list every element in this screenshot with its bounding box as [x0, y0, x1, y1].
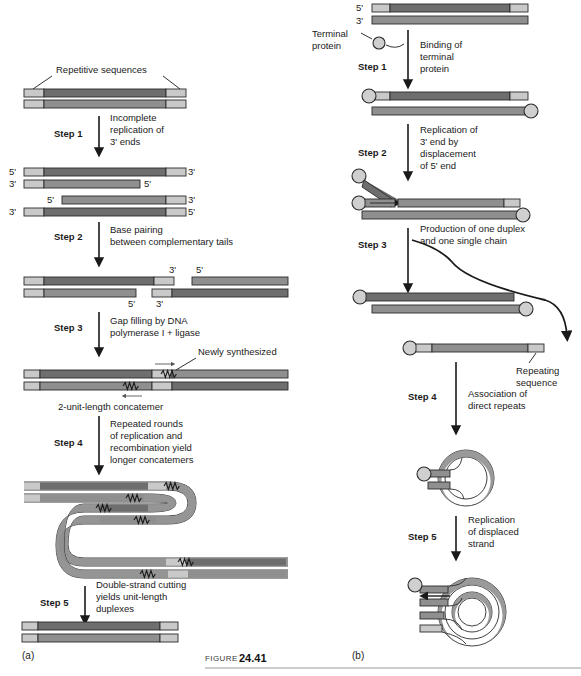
figure-container: Repetitive sequences Step 1 Incomplete r… [0, 0, 581, 676]
terminal-protein-icon [352, 196, 366, 210]
concatemer-label: 2-unit-length concatemer [58, 401, 163, 412]
step-5-desc-line-1: Double-strand cutting [96, 579, 186, 590]
terminal-protein-icon [408, 578, 422, 592]
step-2-desc-line-1: Base pairing [110, 224, 163, 235]
terminal-protein-icon [403, 341, 417, 355]
step-2b-desc-line-1: Replication of [420, 124, 478, 135]
step-3-label-a: Step 3 [54, 322, 83, 333]
five-prime-label: 5' [47, 194, 54, 205]
repetitive-sequences-label: Repetitive sequences [56, 64, 147, 75]
terminal-protein-label-line-1: Terminal [312, 28, 348, 39]
step-5b-desc-line-2: of displaced [468, 526, 519, 537]
step-4-desc-line-3: recombination yield [110, 442, 192, 453]
three-prime-label: 3' [188, 194, 195, 205]
step-1-desc-line-1: Incomplete [110, 112, 156, 123]
step-2-desc-line-2: between complementary tails [110, 236, 233, 247]
panel-b-label: (b) [352, 650, 364, 661]
step-5-desc-line-2: yields unit-length [96, 591, 167, 602]
repeating-sequence-label-line-2: sequence [516, 377, 557, 388]
terminal-protein-icon [417, 467, 431, 481]
step-3b-desc-line-2: and one single chain [420, 235, 507, 246]
step-1b-desc-line-2: terminal [420, 51, 454, 62]
step-1-desc-line-3: 3' ends [110, 136, 141, 147]
five-prime-label: 5' [188, 206, 195, 217]
step-2-label-b: Step 2 [358, 147, 387, 158]
step-5-label-a: Step 5 [40, 597, 69, 608]
three-prime-label: 3' [9, 178, 16, 189]
step-3b-desc-line-1: Production of one duplex [420, 223, 525, 234]
step-5b-desc-line-3: strand [468, 538, 494, 549]
figure-caption-number: 24.41 [239, 652, 267, 664]
terminal-protein-icon [524, 104, 538, 118]
step-2b-desc-line-3: displacement [420, 148, 476, 159]
step-2b-desc-line-4: of 5' end [420, 160, 456, 171]
five-prime-label: 5' [9, 166, 16, 177]
three-prime-label: 3' [169, 264, 176, 275]
three-prime-label: 3' [356, 15, 363, 26]
three-prime-label: 3' [188, 166, 195, 177]
five-prime-label: 5' [144, 178, 151, 189]
figure-caption-word: FIGURE [205, 654, 238, 663]
step-3-desc-line-2: polymerase I + ligase [110, 327, 200, 338]
newly-synthesized-label: Newly synthesized [198, 346, 277, 357]
step-1b-desc-line-1: Binding of [420, 39, 463, 50]
three-prime-label: 3' [156, 298, 163, 309]
step-1-desc-line-2: replication of [110, 124, 164, 135]
three-prime-label: 3' [9, 206, 16, 217]
step-4-desc-line-2: of replication and [110, 430, 182, 441]
step-3-desc-line-1: Gap filling by DNA [110, 315, 188, 326]
step-2b-desc-line-2: 3' end by [420, 136, 459, 147]
step-4-desc-line-4: longer concatemers [110, 454, 194, 465]
step-4-label-a: Step 4 [54, 437, 83, 448]
step-2-label-a: Step 2 [54, 231, 83, 242]
panel-a-label: (a) [22, 650, 34, 661]
step-4b-desc-line-1: Association of [468, 388, 528, 399]
step-1-label-b: Step 1 [358, 61, 387, 72]
terminal-protein-label-line-2: protein [312, 40, 341, 51]
terminal-protein-icon [353, 290, 367, 304]
step-1b-desc-line-3: protein [420, 63, 449, 74]
step-5-label-b: Step 5 [408, 531, 437, 542]
five-prime-label: 5' [128, 298, 135, 309]
step-1-label-a: Step 1 [54, 128, 83, 139]
terminal-protein-icon [519, 302, 533, 316]
step-3-label-b: Step 3 [358, 239, 387, 250]
step-4-desc-line-1: Repeated rounds [110, 418, 183, 429]
terminal-protein-icon [362, 89, 376, 103]
terminal-protein-icon [373, 37, 385, 49]
step-5-desc-line-3: duplexes [96, 603, 134, 614]
step-4b-desc-line-2: direct repeats [468, 400, 526, 411]
five-prime-label: 5' [356, 2, 363, 13]
step-5b-desc-line-1: Replication [468, 514, 515, 525]
terminal-protein-icon [516, 208, 530, 222]
five-prime-label: 5' [196, 264, 203, 275]
repeating-sequence-label-line-1: Repeating [516, 365, 559, 376]
step-4-label-b: Step 4 [408, 391, 437, 402]
